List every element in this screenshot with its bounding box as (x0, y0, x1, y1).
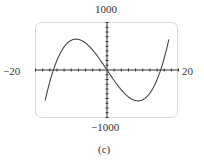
figure-caption: (c) (98, 143, 110, 155)
y-max-label: 1000 (95, 3, 117, 15)
y-min-label: −1000 (91, 121, 119, 133)
x-max-label: 20 (182, 65, 193, 77)
x-min-label: −20 (3, 65, 20, 77)
chart-plot (0, 0, 204, 163)
